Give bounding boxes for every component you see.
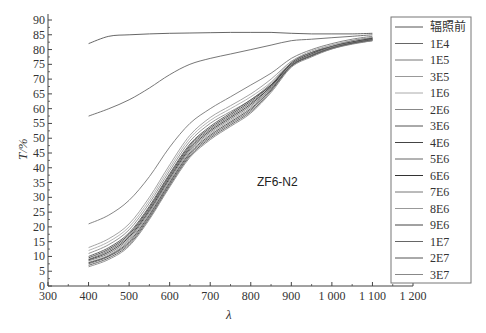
- y-tick-label: 20: [33, 220, 45, 234]
- legend-label: 1E4: [430, 37, 449, 51]
- transmittance-chart: 051015202530354045505560657075808590 300…: [0, 0, 486, 333]
- series-line: [89, 39, 373, 260]
- x-tick-label: 500: [120, 289, 138, 303]
- y-tick-label: 80: [33, 43, 45, 57]
- legend-label: 1E7: [430, 235, 449, 249]
- plot-series: [89, 32, 373, 266]
- legend-label: 2E6: [430, 103, 449, 117]
- series-line: [89, 38, 373, 256]
- y-tick-label: 70: [33, 72, 45, 86]
- series-line: [89, 41, 373, 267]
- legend-label: 7E6: [430, 185, 449, 199]
- legend-label: 3E7: [430, 268, 449, 282]
- chart-annotation: ZF6-N2: [257, 175, 298, 189]
- y-tick-label: 40: [33, 161, 45, 175]
- legend: 辐照前1E41E53E51E62E63E64E65E66E67E68E69E61…: [391, 17, 471, 283]
- x-tick-label: 800: [242, 289, 260, 303]
- y-axis: 051015202530354045505560657075808590: [33, 13, 52, 293]
- series-line: [89, 38, 373, 251]
- y-tick-label: 65: [33, 87, 45, 101]
- x-tick-label: 300: [39, 289, 57, 303]
- x-axis-title: λ: [225, 307, 232, 322]
- legend-label: 2E7: [430, 251, 449, 265]
- legend-label: 1E5: [430, 53, 449, 67]
- y-tick-label: 35: [33, 176, 45, 190]
- y-tick-label: 90: [33, 13, 45, 27]
- series-line: [89, 36, 373, 224]
- y-tick-label: 25: [33, 205, 45, 219]
- series-line: [89, 40, 373, 263]
- y-tick-label: 15: [33, 235, 45, 249]
- legend-label: 6E6: [430, 169, 449, 183]
- legend-label: 5E6: [430, 152, 449, 166]
- legend-label: 辐照前: [430, 19, 466, 34]
- x-tick-label: 1 200: [400, 289, 427, 303]
- y-tick-label: 60: [33, 102, 45, 116]
- x-tick-label: 1 100: [359, 289, 386, 303]
- legend-label: 4E6: [430, 136, 449, 150]
- x-axis: 3004005006007008009001 0001 1001 200: [39, 282, 427, 303]
- legend-label: 1E6: [430, 86, 449, 100]
- y-tick-label: 75: [33, 57, 45, 71]
- y-tick-label: 50: [33, 131, 45, 145]
- y-tick-label: 30: [33, 190, 45, 204]
- y-tick-label: 5: [39, 264, 45, 278]
- x-tick-label: 400: [80, 289, 98, 303]
- y-tick-label: 55: [33, 116, 45, 130]
- legend-label: 9E6: [430, 218, 449, 232]
- series-line: [89, 39, 373, 259]
- legend-label: 3E5: [430, 70, 449, 84]
- legend-label: 8E6: [430, 202, 449, 216]
- legend-label: 3E6: [430, 119, 449, 133]
- series-line: [89, 38, 373, 248]
- y-axis-title: T/%: [15, 138, 30, 160]
- x-tick-label: 700: [201, 289, 219, 303]
- y-tick-label: 85: [33, 28, 45, 42]
- x-tick-label: 900: [282, 289, 300, 303]
- y-tick-label: 10: [33, 249, 45, 263]
- x-tick-label: 600: [161, 289, 179, 303]
- series-line: [89, 40, 373, 263]
- y-tick-label: 45: [33, 146, 45, 160]
- x-tick-label: 1 000: [318, 289, 345, 303]
